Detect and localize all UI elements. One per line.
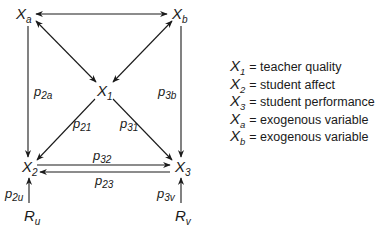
label-p31: p31 xyxy=(119,116,138,133)
edge-xa-x1 xyxy=(36,21,96,82)
legend-text: = student performance xyxy=(249,95,374,109)
legend-row: X2= student affect xyxy=(230,76,375,94)
legend-row: Xa= exogenous variable xyxy=(230,111,375,129)
legend-text: = student affect xyxy=(249,78,335,92)
node-ru: Ru xyxy=(24,207,41,227)
node-xb: Xb xyxy=(171,5,188,25)
legend-text: = exogenous variable xyxy=(249,130,368,144)
label-p21: p21 xyxy=(72,116,91,133)
node-xa: Xa xyxy=(15,5,32,25)
label-p2a: p2a xyxy=(33,84,53,101)
legend-row: Xb= exogenous variable xyxy=(230,128,375,146)
node-x2: X2 xyxy=(21,158,38,178)
legend-text: = exogenous variable xyxy=(249,113,368,127)
legend-text: = teacher quality xyxy=(249,60,341,74)
label-p32: p32 xyxy=(92,148,112,165)
label-p3v: p3v xyxy=(156,186,176,203)
label-p3b: p3b xyxy=(157,84,177,101)
node-x3: X3 xyxy=(174,158,191,178)
label-p2u: p2u xyxy=(4,186,24,203)
label-p23: p23 xyxy=(94,173,114,190)
node-rv: Rv xyxy=(175,207,192,227)
node-x1: X1 xyxy=(96,82,113,102)
legend-row: X1= teacher quality xyxy=(230,58,375,76)
edge-xb-x1 xyxy=(113,21,172,82)
legend-row: X3= student performance xyxy=(230,93,375,111)
legend: X1= teacher quality X2= student affect X… xyxy=(230,58,375,146)
